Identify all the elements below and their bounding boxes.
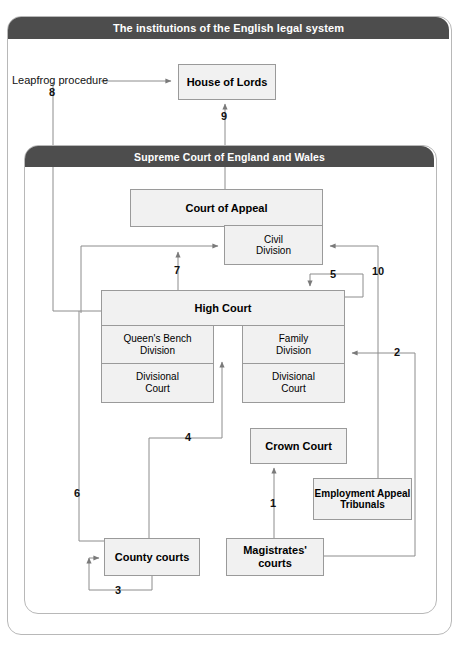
node-high-court-label: High Court [195, 302, 252, 314]
node-employment-appeal-tribunals-label-line2: Tribunals [340, 499, 384, 511]
node-high-court-group: High Court Queen's Bench Division Divisi… [101, 290, 345, 414]
node-family-division-label-line1: Family [279, 333, 308, 345]
annotation-route-7: 7 [174, 264, 180, 276]
node-civil-division-label-line2: Division [256, 245, 291, 257]
node-civil-division-label-line1: Civil [264, 234, 283, 246]
annotation-leapfrog-procedure-label: Leapfrog procedure [12, 74, 108, 86]
node-crown-court-label: Crown Court [265, 440, 332, 453]
outer-frame-title-bar: The institutions of the English legal sy… [8, 17, 449, 39]
node-crown-court[interactable]: Crown Court [250, 428, 347, 464]
node-court-of-appeal[interactable]: Court of Appeal [130, 189, 323, 227]
node-employment-appeal-tribunals-label-line1: Employment Appeal [315, 488, 411, 500]
annotation-route-3: 3 [115, 584, 121, 596]
outer-frame-title: The institutions of the English legal sy… [113, 22, 344, 34]
node-employment-appeal-tribunals[interactable]: Employment Appeal Tribunals [313, 478, 412, 520]
supreme-court-title-bar: Supreme Court of England and Wales [25, 146, 434, 167]
node-high-court[interactable]: High Court [101, 290, 345, 326]
node-family-divisional-court-label-line2: Court [281, 383, 305, 395]
annotation-leapfrog-procedure: Leapfrog procedure [12, 74, 108, 86]
supreme-court-title: Supreme Court of England and Wales [134, 151, 325, 163]
diagram-canvas: The institutions of the English legal sy… [0, 0, 457, 650]
node-magistrates-courts-label-line1: Magistrates' [243, 544, 307, 557]
annotation-route-5: 5 [330, 268, 336, 280]
node-civil-division[interactable]: Civil Division [224, 225, 323, 265]
node-family-division-label-line2: Division [276, 345, 311, 357]
node-queens-bench-division-label-line1: Queen's Bench [123, 333, 191, 345]
annotation-route-2: 2 [394, 346, 400, 358]
node-queens-bench-divisional-court-label-line1: Divisional [136, 371, 179, 383]
node-magistrates-courts-label-line2: courts [258, 557, 292, 570]
node-family-division[interactable]: Family Division [242, 325, 345, 365]
node-family-divisional-court-label-line1: Divisional [272, 371, 315, 383]
node-queens-bench-divisional-court-label-line2: Court [145, 383, 169, 395]
annotation-route-10: 10 [372, 265, 384, 277]
node-court-of-appeal-label: Court of Appeal [185, 202, 267, 215]
annotation-route-8: 8 [49, 86, 55, 98]
annotation-route-9: 9 [221, 110, 227, 122]
annotation-route-4: 4 [185, 431, 191, 443]
node-queens-bench-division-label-line2: Division [140, 345, 175, 357]
node-magistrates-courts[interactable]: Magistrates' courts [226, 538, 324, 576]
node-county-courts-label: County courts [115, 551, 190, 564]
node-family-divisional-court[interactable]: Divisional Court [242, 363, 345, 403]
node-county-courts[interactable]: County courts [104, 538, 200, 576]
node-queens-bench-division[interactable]: Queen's Bench Division [101, 325, 214, 365]
annotation-route-1: 1 [270, 497, 276, 509]
node-house-of-lords-label: House of Lords [187, 76, 268, 89]
annotation-route-6: 6 [74, 487, 80, 499]
node-queens-bench-divisional-court[interactable]: Divisional Court [101, 363, 214, 403]
node-house-of-lords[interactable]: House of Lords [178, 64, 276, 100]
